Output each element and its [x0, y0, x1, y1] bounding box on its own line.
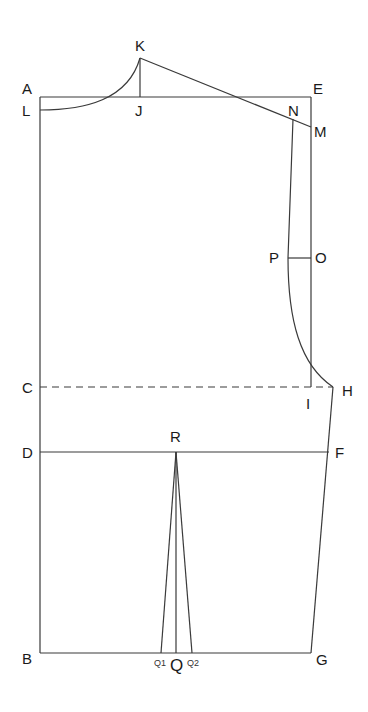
label-l: L	[22, 102, 30, 119]
shoulder-line-k-m	[140, 58, 311, 127]
label-m: M	[314, 123, 327, 140]
label-a: A	[22, 80, 32, 97]
label-k: K	[135, 37, 145, 54]
label-o: O	[315, 249, 327, 266]
pattern-diagram: A L K J E N M P O C H I D R F B G Q1 Q Q…	[0, 0, 368, 712]
label-h: H	[342, 382, 353, 399]
label-q: Q	[170, 656, 183, 675]
side-seam-h-g	[311, 387, 333, 653]
dart-line-r-q1	[161, 452, 176, 653]
label-e: E	[313, 80, 323, 97]
label-j: J	[135, 102, 143, 119]
label-n: N	[288, 102, 299, 119]
label-r: R	[170, 428, 181, 445]
label-b: B	[22, 650, 32, 667]
label-i: I	[306, 395, 310, 412]
dart-line-r-q2	[176, 452, 192, 653]
label-q2: Q2	[187, 658, 199, 668]
label-c: C	[22, 379, 33, 396]
neckline-curve	[40, 58, 140, 110]
label-p: P	[269, 249, 279, 266]
label-d: D	[22, 444, 33, 461]
label-f: F	[335, 444, 344, 461]
label-g: G	[316, 651, 328, 668]
label-q1: Q1	[154, 658, 166, 668]
